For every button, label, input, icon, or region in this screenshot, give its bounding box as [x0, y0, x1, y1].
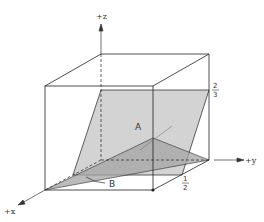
fraction-num: 1: [183, 175, 187, 183]
y-axis-label: +y: [245, 156, 257, 165]
x-axis-arrowhead-icon: [18, 200, 25, 205]
fraction-two-thirds: 2 3: [212, 82, 219, 99]
plane-b-label: B: [109, 179, 115, 189]
x-axis-label: +x: [4, 207, 16, 216]
x-axis: [22, 190, 45, 203]
y-axis-arrowhead-icon: [237, 158, 244, 162]
plane-a-label: A: [135, 122, 142, 132]
z-axis-label: +z: [96, 12, 107, 21]
fraction-den: 2: [183, 184, 187, 192]
z-axis-arrowhead-icon: [99, 24, 103, 31]
crystal-plane-diagram: +z +y +x A B 2 3 1 2: [0, 0, 264, 222]
fraction-one-half: 1 2: [182, 175, 189, 192]
fraction-num: 2: [213, 82, 217, 90]
corner-point: [151, 188, 154, 191]
fraction-den: 3: [213, 91, 217, 99]
